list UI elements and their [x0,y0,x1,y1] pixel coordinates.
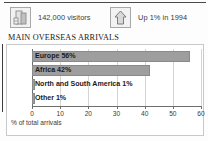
x-tick-label: 40 [141,110,148,117]
bar-label: Other 1% [35,93,66,104]
bar-row: Other 1% [32,93,201,104]
bar-label: Africa 42% [35,65,71,76]
bar-label: Europe 56% [35,51,76,62]
bar-label: North and South America 1% [35,79,133,90]
x-tick [145,106,146,109]
x-tick-label: 0 [30,110,34,117]
left-divider [2,44,3,112]
stat-visitors-label: 142,000 visitors [38,13,91,22]
x-tick-label: 50 [169,110,176,117]
bar-row: North and South America 1% [32,79,201,90]
bar-row: Europe 56% [32,51,201,62]
bar-row: Africa 42% [32,65,201,76]
bar-chart: 0102030405060 Europe 56%Africa 42%North … [6,44,204,136]
x-tick [117,106,118,109]
top-divider [4,2,206,3]
x-tick [173,106,174,109]
x-axis-label: % of total arrivals [11,119,62,126]
x-tick [88,106,89,109]
gridline [201,49,202,106]
buildings-icon [10,7,31,28]
x-tick [201,106,202,109]
page-title: MAIN OVERSEAS ARRIVALS [8,33,119,42]
x-tick-label: 20 [85,110,92,117]
stats-row: 142,000 visitors Up 1% in 1994 [8,7,204,31]
x-tick-label: 60 [197,110,204,117]
up-arrow-icon [110,7,131,28]
stat-growth: Up 1% in 1994 [110,7,187,28]
x-tick-label: 30 [113,110,120,117]
x-tick [32,106,33,109]
x-tick [60,106,61,109]
x-tick-label: 10 [56,110,63,117]
stat-visitors: 142,000 visitors [10,7,91,28]
stat-growth-label: Up 1% in 1994 [138,13,187,22]
infographic-page: 142,000 visitors Up 1% in 1994 MAIN OVER… [0,0,208,141]
